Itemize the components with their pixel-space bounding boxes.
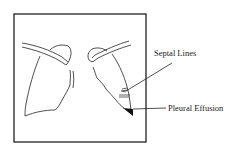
septal-lines-label: Septal Lines: [154, 49, 196, 58]
chest-diagram: [0, 0, 247, 148]
right-clavicle: [88, 41, 131, 62]
diagram-frame: [14, 14, 146, 142]
pleural-effusion-wedge: [123, 108, 133, 116]
left-clavicle: [22, 43, 71, 65]
septal-lines-leader: [126, 63, 172, 91]
pleural-effusion-label: Pleural Effusion: [168, 104, 223, 113]
pleural-effusion-leader: [133, 108, 166, 109]
right-lung: [93, 54, 131, 114]
